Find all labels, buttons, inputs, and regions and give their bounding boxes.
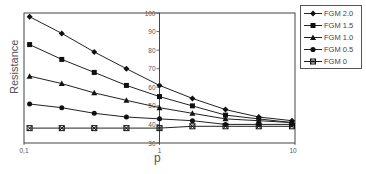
x-square-marker-icon	[303, 56, 323, 67]
square-marker-icon	[124, 83, 129, 88]
y-tick-label: 80	[148, 47, 156, 54]
triangle-marker-icon	[27, 73, 33, 79]
y-tick-label: 70	[148, 65, 156, 72]
legend-label: FGM 1.0	[324, 33, 353, 42]
diamond-marker-icon	[123, 66, 129, 72]
square-marker-icon	[92, 70, 97, 75]
y-axis-label: Resistance	[8, 54, 20, 94]
legend: FGM 2.0 FGM 1.5 FGM 1.0 FGM 0.5 FGM 0	[300, 5, 362, 69]
diamond-marker-icon	[303, 8, 323, 19]
series-line	[30, 104, 292, 124]
diamond-marker-icon	[91, 49, 97, 55]
legend-item-fgm-1-0: FGM 1.0	[303, 32, 361, 43]
circle-marker-icon	[157, 116, 162, 121]
legend-item-fgm-0-5: FGM 0.5	[303, 44, 361, 55]
diamond-marker-icon	[59, 30, 65, 36]
square-marker-icon	[59, 57, 64, 62]
y-tick-label: 60	[148, 84, 156, 91]
circle-marker-icon	[27, 102, 32, 107]
circle-marker-icon	[190, 118, 195, 123]
legend-label: FGM 1.5	[324, 21, 353, 30]
series-fgm-1-5	[27, 42, 294, 125]
square-marker-icon	[190, 103, 195, 108]
y-tick-label: 100	[145, 10, 156, 17]
series-fgm-0-5	[27, 102, 294, 127]
circle-marker-icon	[92, 111, 97, 116]
circle-marker-icon	[59, 105, 64, 110]
legend-label: FGM 0.5	[324, 45, 353, 54]
x-tick-label: 10	[289, 147, 297, 154]
diamond-marker-icon	[223, 107, 229, 113]
diamond-marker-icon	[189, 95, 195, 101]
y-tick-label: 40	[148, 121, 156, 128]
circle-marker-icon	[124, 115, 129, 120]
square-marker-icon	[303, 20, 323, 31]
square-marker-icon	[157, 94, 162, 99]
legend-item-fgm-0: FGM 0	[303, 56, 361, 67]
y-tick-label: 90	[148, 28, 156, 35]
legend-label: FGM 2.0	[324, 9, 353, 18]
x-tick-label: 0,1	[19, 147, 28, 154]
triangle-marker-icon	[303, 32, 323, 43]
circle-marker-icon	[303, 44, 323, 55]
series-line	[30, 17, 292, 121]
y-tick-label: 30	[148, 140, 156, 147]
legend-item-fgm-1-5: FGM 1.5	[303, 20, 361, 31]
series-layer	[27, 14, 295, 131]
legend-label: FGM 0	[324, 57, 347, 66]
diamond-marker-icon	[27, 14, 33, 20]
square-marker-icon	[27, 42, 32, 47]
x-axis-label: p	[154, 151, 161, 165]
legend-item-fgm-2-0: FGM 2.0	[303, 8, 361, 19]
series-line	[30, 45, 292, 123]
